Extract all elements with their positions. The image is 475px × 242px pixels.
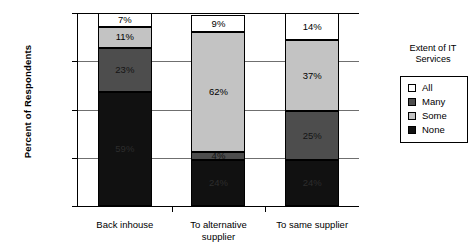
bar-segment-value-label: 11% (116, 32, 134, 42)
bar-segment-value-label: 9% (212, 19, 226, 29)
bar-group: 24%25%37%14% (265, 13, 359, 206)
legend-item-label: None (422, 125, 445, 135)
bar-series-container: 59%23%11%7%24%4%62%9%24%25%37%14% (78, 13, 359, 206)
y-axis-title: Percent of Respondents (22, 17, 33, 187)
legend-item-none[interactable]: None (401, 123, 467, 137)
legend-swatch-icon (408, 112, 416, 120)
bar-segment-value-label: 24% (209, 178, 228, 188)
bar-segment-all[interactable]: 7% (98, 13, 152, 27)
bar-segment-value-label: 23% (115, 65, 134, 75)
bar-segment-none[interactable]: 24% (285, 160, 339, 206)
bar-group: 59%23%11%7% (78, 13, 172, 206)
legend-item-label: Many (422, 97, 445, 107)
plot-area: 0%25%50%75%100% 59%23%11%7%24%4%62%9%24%… (77, 13, 359, 207)
stacked-bar[interactable]: 24%25%37%14% (285, 13, 339, 206)
bar-group: 24%4%62%9% (172, 13, 266, 206)
bar-segment-many[interactable]: 23% (98, 48, 152, 92)
legend-swatch-icon (408, 126, 416, 134)
x-tick-mark (172, 206, 173, 212)
legend: AllManySomeNone (400, 76, 468, 143)
bar-segment-value-label: 62% (209, 87, 228, 97)
bar-segment-all[interactable]: 14% (285, 13, 339, 40)
bar-segment-none[interactable]: 24% (191, 160, 245, 206)
legend-item-label: All (422, 83, 433, 93)
bar-segment-value-label: 14% (303, 22, 322, 32)
legend-item-label: Some (422, 111, 447, 121)
bar-segment-value-label: 25% (303, 131, 322, 141)
bar-segment-value-label: 37% (303, 71, 322, 81)
bar-segment-value-label: 59% (115, 144, 134, 154)
legend-item-some[interactable]: Some (401, 109, 467, 123)
x-tick-mark (265, 206, 266, 212)
bar-segment-some[interactable]: 62% (191, 32, 245, 152)
bar-segment-value-label: 24% (303, 178, 322, 188)
x-category-label: To same supplier (252, 219, 372, 231)
legend-title: Extent of IT Services (391, 43, 475, 65)
legend-swatch-icon (408, 84, 416, 92)
y-tick-mark (72, 206, 78, 207)
stacked-bar[interactable]: 59%23%11%7% (98, 13, 152, 206)
legend-item-all[interactable]: All (401, 81, 467, 95)
legend-item-many[interactable]: Many (401, 95, 467, 109)
legend-swatch-icon (408, 98, 416, 106)
bar-segment-many[interactable]: 25% (285, 111, 339, 159)
bar-segment-all[interactable]: 9% (191, 15, 245, 32)
bar-segment-none[interactable]: 59% (98, 92, 152, 206)
stacked-bar[interactable]: 24%4%62%9% (191, 13, 245, 206)
bar-segment-value-label: 4% (212, 152, 226, 160)
bar-segment-some[interactable]: 37% (285, 40, 339, 111)
bar-segment-many[interactable]: 4% (191, 152, 245, 160)
bar-segment-some[interactable]: 11% (98, 27, 152, 48)
bar-segment-value-label: 7% (118, 15, 132, 25)
